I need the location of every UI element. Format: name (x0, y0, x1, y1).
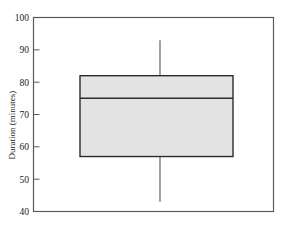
y-tick-label-40: 40 (20, 207, 30, 217)
y-axis-title: Duration (minutes) (7, 91, 17, 160)
y-tick-label-60: 60 (20, 142, 30, 152)
y-tick-label-90: 90 (20, 45, 30, 55)
y-tick-label-70: 70 (20, 110, 30, 120)
y-tick-label-100: 100 (15, 13, 30, 23)
boxplot-figure: 100 90 80 70 60 50 40 Duration (minutes) (0, 0, 290, 226)
box-iqr-rect (80, 76, 233, 157)
y-tick-label-80: 80 (20, 78, 30, 88)
boxplot-canvas: 100 90 80 70 60 50 40 Duration (minutes) (0, 0, 290, 226)
y-tick-label-50: 50 (20, 175, 30, 185)
